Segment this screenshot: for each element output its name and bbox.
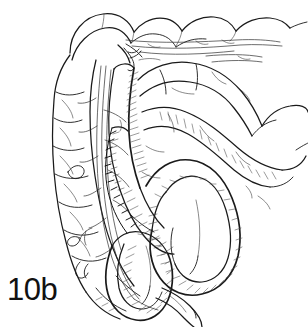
ascending-colon-group bbox=[53, 55, 135, 292]
figure-root: 10b bbox=[0, 0, 308, 327]
cecum-hatching bbox=[123, 234, 172, 313]
figure-label: 10b bbox=[7, 274, 57, 305]
lower-loop-hatching bbox=[149, 176, 242, 293]
colon-flexure-group bbox=[118, 44, 142, 71]
transverse-colon-group bbox=[70, 14, 307, 60]
small-bowel-loop-lower bbox=[146, 160, 242, 295]
small-bowel-loop-upper bbox=[138, 55, 308, 136]
small-bowel-loop-center bbox=[120, 188, 174, 254]
small-bowel-loop-mid bbox=[142, 108, 308, 188]
mid-loop-hatching bbox=[160, 112, 276, 179]
